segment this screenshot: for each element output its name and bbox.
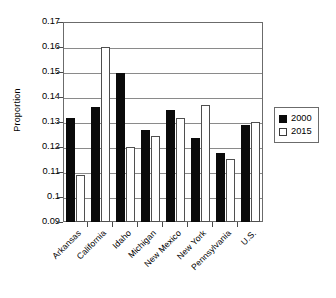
y-axis-tick-label: 0.12 [0, 142, 60, 151]
bar-chart: Proportion 0.170.160.150.140.130.120.110… [0, 0, 336, 298]
bar-group [63, 22, 88, 222]
bar-michigan-2000 [141, 130, 150, 223]
bar-michigan-2015 [151, 136, 160, 222]
bar-pennsylvania-2000 [216, 153, 225, 222]
legend-item-label: 2015 [291, 127, 312, 136]
bar-arkansas-2000 [66, 118, 75, 222]
x-axis-label-cell: Arkansas [63, 226, 88, 296]
bar-group [213, 22, 238, 222]
bar-california-2015 [101, 47, 110, 222]
bar-california-2000 [91, 107, 100, 223]
y-axis-tick-label: 0.1 [0, 192, 60, 201]
legend-item: 2000 [279, 112, 312, 125]
filled-square-icon [279, 115, 287, 123]
bar-new-mexico-2000 [166, 110, 175, 223]
legend-item: 2015 [279, 125, 312, 138]
y-axis-tick-label: 0.17 [0, 17, 60, 26]
bar-pennsylvania-2015 [226, 159, 235, 222]
bar-arkansas-2015 [76, 175, 85, 223]
bar-idaho-2000 [116, 73, 125, 222]
bar-groups [63, 22, 263, 222]
x-axis-tick-label: Idaho [110, 228, 133, 251]
y-axis-tick-label: 0.15 [0, 67, 60, 76]
bar-new-mexico-2015 [176, 118, 185, 222]
bar-group [88, 22, 113, 222]
hollow-square-icon [279, 128, 287, 136]
bar-u-s-2000 [241, 125, 250, 223]
x-axis-label-cell: Pennsylvania [213, 226, 238, 296]
y-axis-title: Proportion [12, 70, 22, 150]
chart-legend: 20002015 [274, 107, 319, 143]
x-axis-tick-labels: ArkansasCaliforniaIdahoMichiganNew Mexic… [63, 226, 263, 296]
bar-group [163, 22, 188, 222]
x-axis-tick-label: U.S. [238, 228, 257, 247]
x-axis-label-cell: U.S. [238, 226, 263, 296]
bar-group [188, 22, 213, 222]
x-axis-label-cell: California [88, 226, 113, 296]
y-axis-tick-label: 0.16 [0, 42, 60, 51]
y-axis-tick-label: 0.13 [0, 117, 60, 126]
y-axis-tick-label: 0.14 [0, 92, 60, 101]
y-axis-tick-label: 0.09 [0, 217, 60, 226]
legend-item-label: 2000 [291, 114, 312, 123]
bar-idaho-2015 [126, 147, 135, 222]
x-axis-label-cell: New Mexico [163, 226, 188, 296]
x-axis-label-cell: Idaho [113, 226, 138, 296]
bar-new-york-2000 [191, 138, 200, 222]
bar-group [113, 22, 138, 222]
bar-u-s-2015 [251, 122, 260, 222]
bar-new-york-2015 [201, 105, 210, 222]
y-axis-tick-label: 0.11 [0, 167, 60, 176]
bar-group [238, 22, 263, 222]
bar-group [138, 22, 163, 222]
